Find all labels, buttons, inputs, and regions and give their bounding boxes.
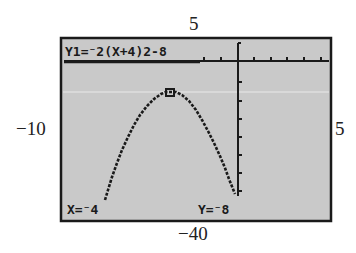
calculator-graph-screen: Y1=⁻2(X+4)2-8 X=⁻4 Y=⁻8 (0, 0, 356, 253)
x-readout: X=⁻4 (67, 202, 98, 217)
equation-text: Y1=⁻2(X+4)2-8 (65, 44, 167, 59)
screen-frame (61, 38, 331, 221)
y-readout: Y=⁻8 (198, 202, 229, 217)
